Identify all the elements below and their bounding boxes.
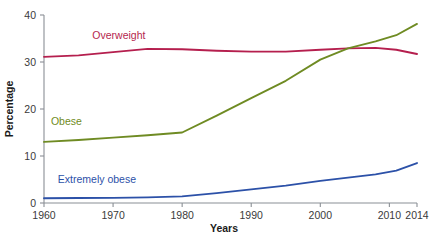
y-tick-label: 30 <box>24 56 36 68</box>
chart-canvas: 010203040 1960197019801990200020102014 O… <box>0 0 436 242</box>
x-axis-title: Years <box>210 222 238 234</box>
x-tick-group: 1960197019801990200020102014 <box>32 203 429 221</box>
series-group <box>44 24 417 198</box>
y-axis-title: Percentage <box>3 81 15 138</box>
series-label-extremely-obese: Extremely obese <box>58 173 136 185</box>
y-tick-label: 20 <box>24 103 36 115</box>
series-line-obese <box>44 24 417 142</box>
series-line-overweight <box>44 48 417 57</box>
x-tick-label: 2010 <box>378 209 402 221</box>
y-tick-label: 0 <box>30 197 36 209</box>
x-tick-label: 1990 <box>240 209 264 221</box>
y-tick-label: 40 <box>24 9 36 21</box>
x-tick-label: 1960 <box>32 209 56 221</box>
y-axis: 010203040 <box>24 9 44 209</box>
y-tick-label: 10 <box>24 150 36 162</box>
x-tick-label: 1970 <box>101 209 125 221</box>
x-tick-label: 2014 <box>405 209 429 221</box>
series-label-overweight: Overweight <box>92 29 145 41</box>
x-tick-label: 2000 <box>309 209 333 221</box>
y-tick-group: 010203040 <box>24 9 44 209</box>
x-axis: 1960197019801990200020102014 <box>32 203 429 221</box>
line-chart: 010203040 1960197019801990200020102014 O… <box>0 0 436 242</box>
series-label-obese: Obese <box>51 115 82 127</box>
x-tick-label: 1980 <box>170 209 194 221</box>
